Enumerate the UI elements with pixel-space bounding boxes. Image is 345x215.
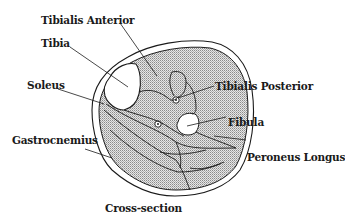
label-soleus: Soleus — [27, 80, 65, 91]
label-peroneus-longus: Peroneus Longus — [247, 152, 345, 163]
diagram-caption: Cross-section — [105, 203, 182, 214]
label-fibula: Fibula — [228, 117, 264, 128]
label-tibialis-anterior: Tibialis Anterior — [41, 15, 134, 26]
label-tibia: Tibia — [41, 38, 70, 49]
label-tibialis-posterior: Tibialis Posterior — [215, 81, 313, 92]
label-gastrocnemius: Gastrocnemius — [12, 135, 98, 146]
